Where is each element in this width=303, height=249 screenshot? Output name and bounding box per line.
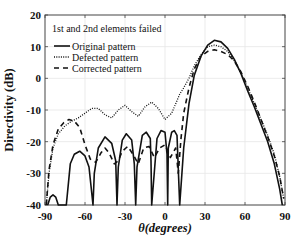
x-tick-label: -60 [78,210,93,222]
chart-annotation: 1st and 2nd elements failed [52,23,161,34]
directivity-chart: -90-60-30030609020100-10-20-30-40 1st an… [0,0,303,249]
y-tick-label: 20 [30,9,42,21]
x-axis-label: θ(degrees) [138,221,192,235]
axis-ticks: -90-60-30030609020100-10-20-30-40 [26,9,291,222]
x-tick-label: 60 [240,210,252,222]
y-tick-label: -10 [26,104,41,116]
x-tick-label: -30 [118,210,133,222]
legend-label-corrected: Corrected pattern [72,63,142,74]
y-axis-label: Directivity (dB) [2,68,16,151]
x-tick-label: 30 [200,210,212,222]
y-tick-label: -20 [26,136,41,148]
legend-label-defected: Defected pattern [72,52,138,63]
x-tick-label: 90 [280,210,292,222]
y-tick-label: -30 [26,167,41,179]
legend: Original pattern Defected pattern Correc… [54,41,142,74]
x-tick-label: -90 [38,210,53,222]
y-tick-label: 10 [30,41,42,53]
y-tick-label: 0 [36,72,42,84]
y-tick-label: -40 [26,199,41,211]
legend-label-original: Original pattern [72,41,136,52]
